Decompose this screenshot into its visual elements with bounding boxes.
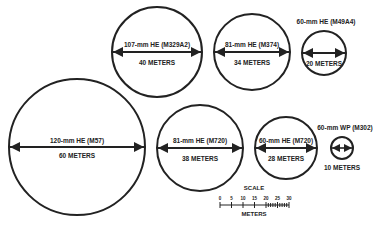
diameter-label: 40 METERS [139,59,176,66]
scale-tick-label: 5 [230,196,233,201]
diameter-label: 28 METERS [268,155,305,162]
scale-unit-label: METERS [241,211,266,217]
circle-107mm-he-m329a2: 107-mm HE (M329A2) 40 METERS [112,7,202,97]
munition-label: 120-mm HE (M57) [50,137,104,145]
scale-title: SCALE [244,185,264,191]
scale-tick-label: 20 [263,196,269,201]
munition-label: 60-mm WP (M302) [317,124,373,132]
circle-60mm-he-m49a4: 60-mm HE (M49A4) 20 METERS [297,18,356,75]
diameter-label: 20 METERS [306,60,343,67]
circle-81mm-he-m720: 81-mm HE (M720) 38 METERS [157,105,243,191]
scale-tick-label: 30 [286,196,292,201]
diameter-label: 60 METERS [59,152,96,159]
diagram-canvas: 120-mm HE (M57) 60 METERS 107-mm HE (M32… [0,0,373,225]
circle-60mm-he-m720: 60-mm HE (M720) 28 METERS [255,117,317,179]
scale-tick-label: 25 [275,196,281,201]
diameter-label: 10 METERS [324,164,361,171]
munition-label: 60-mm HE (M720) [259,137,313,145]
circle-81mm-he-m374: 81-mm HE (M374) 34 METERS [214,14,290,90]
scale-tick-label: 10 [240,196,246,201]
munition-label: 81-mm HE (M374) [225,41,279,49]
circle-60mm-wp-m302: 60-mm WP (M302) 10 METERS [317,124,373,171]
diameter-label: 38 METERS [182,155,219,162]
scale-tick-label: 15 [252,196,258,201]
scale-tick-label: 0 [219,196,222,201]
munition-label: 107-mm HE (M329A2) [124,41,190,49]
munition-label: 60-mm HE (M49A4) [297,18,356,26]
circle-120mm-he-m57: 120-mm HE (M57) 60 METERS [9,79,145,215]
munition-label: 81-mm HE (M720) [173,137,227,145]
diameter-label: 34 METERS [234,59,271,66]
scale-bar: SCALE 0 5 10 15 20 25 30 [219,185,292,217]
